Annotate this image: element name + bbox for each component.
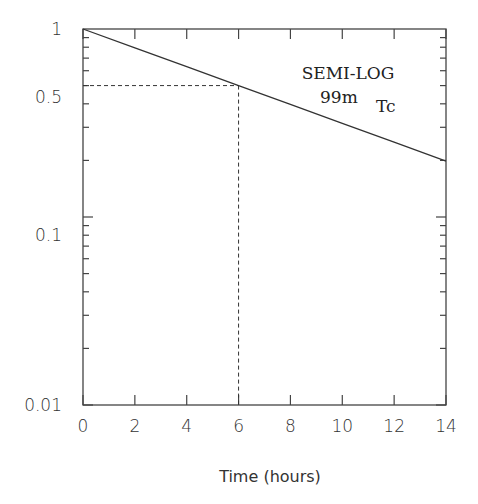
x-tick-label: 2 — [129, 416, 140, 436]
chart-annotation: SEMI-LOG 99m Tc — [302, 63, 396, 116]
annotation-isotope-mass: 99m — [320, 87, 358, 107]
x-tick-label: 12 — [383, 416, 405, 436]
x-tick-label: 8 — [285, 416, 296, 436]
x-tick-label: 0 — [78, 416, 89, 436]
y-tick-label: 0.01 — [24, 395, 62, 415]
x-axis-labels: 02468101214 — [78, 416, 457, 436]
x-tick-label: 6 — [233, 416, 244, 436]
x-axis-title: Time (hours) — [218, 467, 321, 486]
x-tick-label: 4 — [181, 416, 192, 436]
plot-frame — [83, 29, 446, 405]
semi-log-chart: 1 0.5 0.1 0.01 02468101214 Time (hours) … — [0, 0, 478, 504]
y-axis-labels: 1 0.5 0.1 0.01 — [24, 19, 62, 415]
annotation-line1: SEMI-LOG — [302, 63, 395, 83]
half-life-guides — [83, 86, 239, 405]
annotation-isotope-symbol: Tc — [376, 96, 396, 116]
axis-ticks — [83, 29, 446, 405]
x-tick-label: 10 — [331, 416, 353, 436]
y-tick-label: 0.1 — [35, 225, 62, 245]
y-tick-label: 0.5 — [35, 87, 62, 107]
x-tick-label: 14 — [435, 416, 457, 436]
y-tick-label: 1 — [51, 19, 62, 39]
